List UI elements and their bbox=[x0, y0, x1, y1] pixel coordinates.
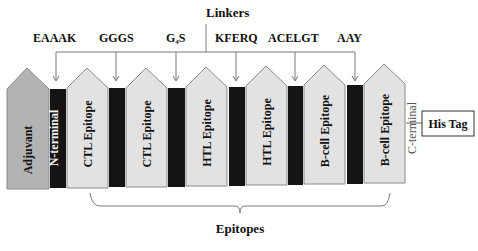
linker-label-aay: AAY bbox=[337, 31, 362, 45]
n-terminal-label: N-terminal bbox=[47, 109, 61, 166]
linker-bar-3 bbox=[168, 88, 185, 187]
c-terminal-label: C-terminal bbox=[405, 101, 419, 154]
epitope-label-htl-1: HTL Epitope bbox=[200, 98, 214, 166]
linkers-title: Linkers bbox=[206, 5, 249, 20]
epitopes-label: Epitopes bbox=[216, 221, 264, 236]
epitopes-bracket bbox=[90, 193, 390, 213]
epitope-label-bcell-1: B-cell Epitope bbox=[318, 94, 332, 167]
epitope-label-ctl-1: CTL Epitope bbox=[81, 100, 95, 168]
linker-bar-5 bbox=[288, 86, 303, 185]
epitope-label-htl-2: HTL Epitope bbox=[260, 97, 274, 165]
linker-bar-4 bbox=[229, 87, 245, 186]
linker-bar-2 bbox=[109, 88, 125, 187]
linker-label-g4s: G4S bbox=[166, 31, 186, 46]
linker-label-acelgt: ACELGT bbox=[268, 31, 319, 45]
linker-label-eaaak: EAAAK bbox=[33, 31, 77, 45]
linker-label-kferq: KFERQ bbox=[215, 31, 258, 45]
linker-label-gggs: GGGS bbox=[99, 31, 134, 45]
epitope-label-ctl-2: CTL Epitope bbox=[140, 100, 154, 168]
adjuvant-label: Adjuvant bbox=[21, 126, 35, 175]
linker-bar-6 bbox=[347, 85, 363, 184]
vaccine-construct-diagram: Linkers EAAAK GGGS G4S KFERQ ACELGT AAY … bbox=[0, 0, 478, 251]
epitope-label-bcell-2: B-cell Epitope bbox=[378, 93, 392, 166]
his-tag-label: His Tag bbox=[428, 117, 467, 131]
